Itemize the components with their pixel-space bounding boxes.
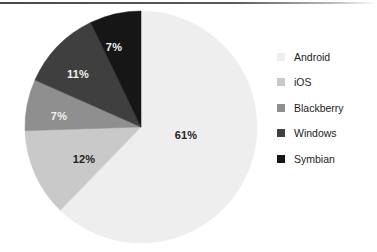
pie-slice-label-symbian: 7%: [106, 41, 122, 53]
legend-swatch-icon: [277, 129, 285, 137]
legend-swatch-icon: [277, 155, 285, 163]
legend-item-android[interactable]: Android: [277, 44, 377, 70]
pie-slice-group: [25, 11, 257, 243]
pie-slice-label-blackberry: 7%: [51, 110, 67, 122]
legend-item-label: Windows: [294, 128, 337, 139]
pie-slice-label-windows: 11%: [67, 68, 89, 80]
legend-item-label: Symbian: [294, 154, 335, 165]
pie-slice-label-android: 61%: [175, 129, 198, 141]
legend-item-windows[interactable]: Windows: [277, 121, 377, 147]
legend-item-blackberry[interactable]: Blackberry: [277, 95, 377, 121]
legend-item-label: Blackberry: [294, 103, 344, 114]
pie-chart-svg: [0, 0, 265, 252]
legend-swatch-icon: [277, 78, 285, 86]
legend-item-ios[interactable]: iOS: [277, 70, 377, 96]
pie-chart: 61%12%7%11%7%: [0, 0, 265, 252]
legend-item-symbian[interactable]: Symbian: [277, 146, 377, 172]
pie-slice-label-ios: 12%: [73, 153, 96, 165]
legend-item-label: Android: [294, 52, 330, 63]
legend-swatch-icon: [277, 104, 285, 112]
legend-swatch-icon: [277, 53, 285, 61]
legend-item-label: iOS: [294, 77, 312, 88]
chart-legend: AndroidiOSBlackberryWindowsSymbian: [277, 44, 377, 172]
